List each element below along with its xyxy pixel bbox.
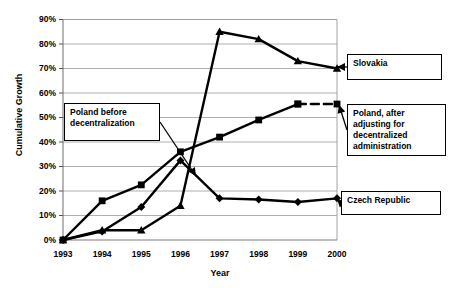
annotation-leaders [160, 63, 347, 207]
callout-line: Slovakia [353, 58, 436, 69]
callout-line: Czech Republic [347, 195, 435, 206]
y-tick-label: 90% [22, 14, 56, 24]
y-tick-label: 80% [22, 39, 56, 49]
callout-line: Poland before [70, 107, 154, 118]
callout-czech-republic: Czech Republic [341, 191, 441, 215]
y-tick-label: 0% [22, 235, 56, 245]
callout-line: Poland, after [353, 108, 440, 119]
callout-line: decentralized [353, 130, 440, 141]
chart-root: Cumulative Growth Year 0%10%20%30%40%50%… [0, 0, 449, 288]
callout-line: administration [353, 141, 440, 152]
x-tick-label: 1997 [198, 249, 242, 259]
callout-slovakia: Slovakia [347, 54, 442, 80]
callout-poland-after: Poland, afteradjusting fordecentralizeda… [347, 104, 446, 156]
x-tick-label: 1993 [41, 249, 85, 259]
callout-poland-before: Poland beforedecentralization [64, 103, 160, 141]
callout-line: decentralization [70, 118, 154, 129]
x-tick-label: 1994 [80, 249, 124, 259]
y-tick-label: 20% [22, 186, 56, 196]
x-tick-label: 1996 [158, 249, 202, 259]
y-tick-label: 30% [22, 161, 56, 171]
y-tick-label: 50% [22, 112, 56, 122]
x-tick-label: 1995 [119, 249, 163, 259]
y-tick-label: 10% [22, 210, 56, 220]
y-tick-label: 70% [22, 63, 56, 73]
x-tick-label: 1998 [237, 249, 281, 259]
x-tick-label: 2000 [315, 249, 359, 259]
y-tick-label: 60% [22, 88, 56, 98]
y-tick-label: 40% [22, 137, 56, 147]
x-axis-title: Year [160, 268, 280, 278]
callout-line: adjusting for [353, 119, 440, 130]
x-tick-label: 1999 [276, 249, 320, 259]
